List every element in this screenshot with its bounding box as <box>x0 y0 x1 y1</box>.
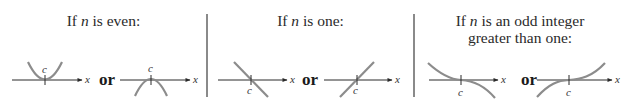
graph-even-parabola-up: x c <box>12 62 90 85</box>
graph-odd-cubic-increasing: x c <box>537 63 620 98</box>
or-connector: or <box>521 70 538 89</box>
x-axis-label: x <box>500 73 506 85</box>
graphs-canvas: x c or x c x c or x c x c or x <box>0 0 626 105</box>
graph-one-line-decreasing: x c <box>218 62 295 97</box>
c-label: c <box>247 84 252 96</box>
c-label: c <box>566 86 571 98</box>
or-connector: or <box>302 70 319 89</box>
x-axis-label: x <box>84 73 90 85</box>
c-label: c <box>458 86 463 98</box>
c-label: c <box>148 62 153 74</box>
c-label: c <box>42 63 47 75</box>
graph-odd-cubic-decreasing: x c <box>428 63 506 98</box>
x-axis-label: x <box>192 73 198 85</box>
x-axis-label: x <box>289 73 295 85</box>
c-label: c <box>353 84 358 96</box>
x-axis-label: x <box>614 73 620 85</box>
x-axis-label: x <box>394 73 400 85</box>
graph-even-parabola-down: x c <box>120 62 198 96</box>
or-connector: or <box>99 70 116 89</box>
graph-one-line-increasing: x c <box>324 62 400 97</box>
